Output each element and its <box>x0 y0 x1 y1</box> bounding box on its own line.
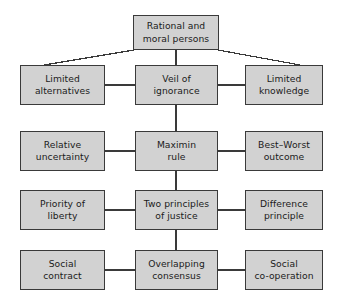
node-limited-knowledge: Limited knowledge <box>245 65 323 105</box>
node-label-limited-alternatives: Limited alternatives <box>35 73 90 97</box>
node-label-difference-principle: Difference principle <box>260 198 308 222</box>
node-label-social-co-operation: Social co-operation <box>254 258 313 282</box>
node-relative-uncertainty: Relative uncertainty <box>20 131 105 171</box>
node-label-social-contract: Social contract <box>43 258 82 282</box>
node-overlapping-consensus: Overlapping consensus <box>135 250 218 290</box>
node-maximin-rule: Maximin rule <box>135 131 218 171</box>
node-label-maximin-rule: Maximin rule <box>157 139 196 163</box>
node-label-rational-moral-persons: Rational and moral persons <box>143 20 209 44</box>
node-difference-principle: Difference principle <box>245 190 323 230</box>
node-label-limited-knowledge: Limited knowledge <box>259 73 309 97</box>
node-social-contract: Social contract <box>20 250 105 290</box>
flow-diagram: Rational and moral personsLimited altern… <box>0 0 344 303</box>
node-two-principles-of-justice: Two principles of justice <box>135 190 218 230</box>
connector-top-to-limited-knowledge <box>218 50 300 65</box>
node-label-best-worst-outcome: Best–Worst outcome <box>258 139 310 163</box>
node-limited-alternatives: Limited alternatives <box>20 65 105 105</box>
node-best-worst-outcome: Best–Worst outcome <box>245 131 323 171</box>
node-priority-of-liberty: Priority of liberty <box>20 190 105 230</box>
node-label-veil-of-ignorance: Veil of ignorance <box>153 73 199 97</box>
node-social-co-operation: Social co-operation <box>245 250 323 290</box>
node-rational-moral-persons: Rational and moral persons <box>133 15 219 50</box>
node-label-relative-uncertainty: Relative uncertainty <box>36 139 89 163</box>
node-label-priority-of-liberty: Priority of liberty <box>40 198 85 222</box>
node-label-two-principles-of-justice: Two principles of justice <box>144 198 209 222</box>
node-label-overlapping-consensus: Overlapping consensus <box>148 258 205 282</box>
connector-top-to-limited-alternatives <box>44 50 134 65</box>
node-veil-of-ignorance: Veil of ignorance <box>135 65 218 105</box>
